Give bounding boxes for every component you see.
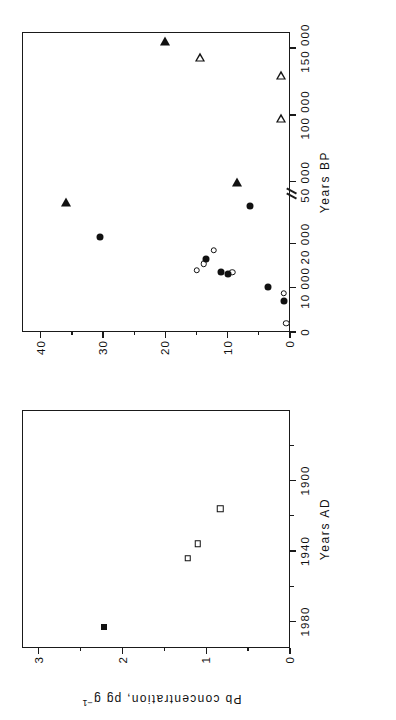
y-tick-left bbox=[122, 648, 123, 654]
x-axis-title-right: Years BP bbox=[318, 151, 332, 213]
y-tick-left bbox=[206, 648, 207, 654]
y-axis-title-text: Pb concentration, pg g bbox=[93, 692, 242, 706]
data-point-circle-open bbox=[193, 267, 200, 274]
y-tick-label-left: 2 bbox=[117, 656, 129, 680]
y-axis-title-exponent: −1 bbox=[83, 698, 93, 708]
x-tick-left bbox=[290, 550, 296, 551]
data-point-square-open bbox=[195, 541, 202, 548]
x-tick-right bbox=[290, 243, 296, 244]
y-tick-right bbox=[40, 332, 41, 338]
y-tick-label-right: 10 bbox=[222, 340, 234, 366]
data-point-circle-open bbox=[281, 290, 288, 297]
y-axis-title: Pb concentration, pg g−1 bbox=[83, 692, 242, 708]
data-point-circle-filled bbox=[218, 268, 225, 275]
y-minor-tick-left bbox=[164, 648, 165, 652]
y-tick-right bbox=[227, 332, 228, 338]
data-point-circle-open bbox=[211, 247, 218, 254]
x-tick-right bbox=[290, 287, 296, 288]
x-tick-label-right: 50 000 bbox=[299, 161, 311, 203]
y-tick-label-left: 3 bbox=[33, 656, 45, 680]
x-axis-title-left: Years AD bbox=[318, 498, 332, 560]
x-tick-label-right: 150 000 bbox=[299, 23, 311, 72]
y-tick-left bbox=[38, 648, 39, 654]
y-tick-left bbox=[289, 648, 290, 654]
x-tick-label-left: 1940 bbox=[299, 536, 311, 566]
y-tick-right bbox=[165, 332, 166, 338]
data-point-circle-filled bbox=[224, 270, 231, 277]
y-tick-right bbox=[102, 332, 103, 338]
x-minor-tick-left bbox=[290, 586, 294, 587]
x-tick-right bbox=[290, 114, 296, 115]
y-minor-tick-right bbox=[134, 332, 135, 336]
x-tick-right bbox=[290, 47, 296, 48]
data-point-circle-open bbox=[283, 320, 290, 327]
data-point-tri-open bbox=[276, 113, 286, 122]
data-point-tri-open bbox=[195, 53, 205, 62]
data-point-circle-filled bbox=[265, 283, 272, 290]
x-tick-right bbox=[290, 331, 296, 332]
y-minor-tick-left bbox=[80, 648, 81, 652]
data-point-tri-open bbox=[276, 70, 286, 79]
x-tick-label-right: 0 bbox=[299, 328, 311, 336]
x-tick-label-right: 100 000 bbox=[299, 90, 311, 139]
figure-stage: Pb concentration, pg g−1 198019401900012… bbox=[0, 0, 396, 720]
data-point-square-open bbox=[185, 555, 192, 562]
y-tick-label-left: 0 bbox=[284, 656, 296, 680]
data-point-circle-filled bbox=[96, 234, 103, 241]
data-point-circle-filled bbox=[247, 203, 254, 210]
data-point-circle-filled bbox=[202, 255, 209, 262]
data-point-circle-filled bbox=[281, 298, 288, 305]
x-tick-right bbox=[290, 181, 296, 182]
y-tick-label-right: 30 bbox=[97, 340, 109, 366]
x-tick-label-left: 1980 bbox=[299, 607, 311, 637]
data-point-tri-filled bbox=[160, 37, 170, 46]
y-minor-tick-left bbox=[247, 648, 248, 652]
x-tick-label-right: 20 000 bbox=[299, 223, 311, 265]
x-tick-left bbox=[290, 480, 296, 481]
y-tick-label-left: 1 bbox=[200, 656, 212, 680]
data-point-tri-filled bbox=[61, 197, 71, 206]
data-point-square-open bbox=[217, 505, 224, 512]
y-tick-right bbox=[289, 332, 290, 338]
y-minor-tick-right bbox=[258, 332, 259, 336]
plot-frame-right bbox=[22, 32, 290, 332]
figure-canvas: Pb concentration, pg g−1 198019401900012… bbox=[0, 0, 396, 720]
y-tick-label-right: 40 bbox=[35, 340, 47, 366]
x-tick-label-left: 1900 bbox=[299, 466, 311, 496]
x-tick-label-right: 10 000 bbox=[299, 267, 311, 309]
x-minor-tick-left bbox=[290, 515, 294, 516]
x-minor-tick-left bbox=[290, 445, 294, 446]
data-point-tri-filled bbox=[232, 177, 242, 186]
y-tick-label-right: 0 bbox=[284, 340, 296, 366]
plot-frame-left bbox=[22, 410, 290, 648]
y-tick-label-right: 20 bbox=[159, 340, 171, 366]
data-point-square-filled bbox=[101, 624, 107, 630]
x-tick-left bbox=[290, 621, 296, 622]
y-minor-tick-right bbox=[71, 332, 72, 336]
y-minor-tick-right bbox=[196, 332, 197, 336]
